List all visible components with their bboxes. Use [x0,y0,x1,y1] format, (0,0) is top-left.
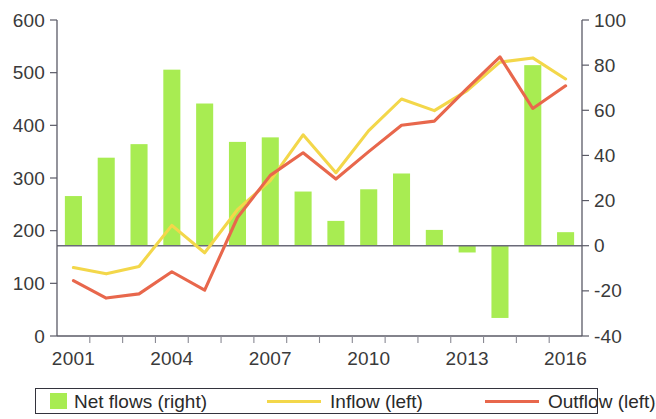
x-axis-tick-2016: 2016 [544,348,587,369]
bar-2014 [491,246,508,318]
chart-legend: Net flows (right) Inflow (left) Outflow … [35,388,598,414]
bar-2015 [524,65,541,246]
x-axis-tick-2010: 2010 [347,348,390,369]
legend-swatch-net-flows-icon [50,393,67,409]
bar-2007 [262,137,279,245]
bar-2009 [327,221,344,246]
right-axis-tick-100: 100 [594,10,626,31]
right-axis-tick-0: 0 [594,235,605,256]
x-axis-tick-2013: 2013 [446,348,489,369]
bar-series-net-flows [65,65,574,318]
x-axis-tick-2001: 2001 [52,348,95,369]
legend-item-outflow: Outflow (left) [485,392,656,411]
legend-item-net-flows: Net flows (right) [50,392,207,411]
legend-label-net-flows: Net flows (right) [74,392,207,411]
left-axis-tick-200: 200 [13,220,45,241]
legend-swatch-outflow-icon [485,400,539,403]
right-axis-tick-80: 80 [594,55,616,76]
bar-2011 [393,173,410,245]
bar-2013 [459,246,476,253]
bar-2016 [557,232,574,246]
x-axis-tick-2004: 2004 [150,348,193,369]
left-axis-tick-300: 300 [13,168,45,189]
bar-2005 [196,104,213,246]
left-axis-tick-100: 100 [13,273,45,294]
legend-item-inflow: Inflow (left) [267,392,423,411]
right-axis-tick-60: 60 [594,100,616,121]
right-axis-tick--20: -20 [594,280,622,301]
bar-2010 [360,189,377,245]
left-axis-tick-400: 400 [13,115,45,136]
right-axis-tick-20: 20 [594,190,616,211]
bar-2008 [295,192,312,246]
right-axis-tick-40: 40 [594,145,616,166]
legend-label-outflow: Outflow (left) [548,392,656,411]
legend-swatch-inflow-icon [267,400,321,403]
bar-2003 [131,144,148,246]
x-axis-tick-2007: 2007 [249,348,292,369]
bar-2004 [163,70,180,246]
bar-2002 [98,158,115,246]
legend-label-inflow: Inflow (left) [330,392,423,411]
left-axis-tick-600: 600 [13,10,45,31]
left-axis-tick-500: 500 [13,62,45,83]
left-axis-tick-0: 0 [34,326,45,347]
bar-2012 [426,230,443,246]
bar-2001 [65,196,82,246]
right-axis-tick--40: -40 [594,326,622,347]
